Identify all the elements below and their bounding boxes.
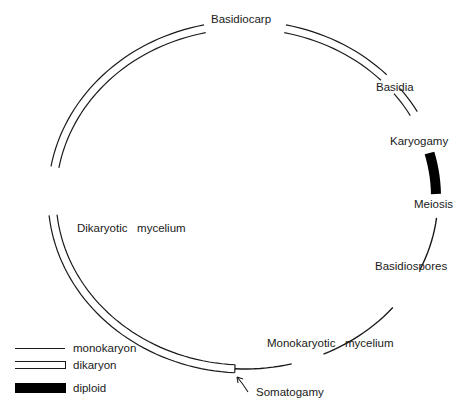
life-cycle-diagram	[0, 0, 463, 415]
legend-dikaryon-label: dikaryon	[73, 359, 116, 372]
monokaryon-line	[235, 364, 292, 369]
label-basidia: Basidia	[376, 81, 414, 94]
label-dikaryotic-mycelium: Dikaryotic mycelium	[77, 222, 186, 235]
legend-diploid-swatch	[15, 383, 66, 393]
dikaryon-arcs	[49, 25, 417, 373]
legend-monokaryon-swatch	[15, 348, 65, 349]
label-meiosis: Meiosis	[414, 198, 453, 211]
label-basidiocarp: Basidiocarp	[211, 13, 271, 26]
legend-monokaryon-label: monokaryon	[73, 342, 136, 355]
somatogamy-arrow-icon	[237, 377, 248, 392]
dikaryon-outer-line	[51, 25, 204, 167]
label-somatogamy: Somatogamy	[256, 386, 324, 399]
legend-dikaryon-swatch	[15, 361, 66, 369]
label-karyogamy: Karyogamy	[390, 135, 448, 148]
label-basidiospores: Basidiospores	[375, 260, 447, 273]
label-monokaryotic-mycelium: Monokaryotic mycelium	[267, 337, 394, 350]
diploid-arc	[429, 153, 435, 194]
diploid-bar	[429, 153, 435, 194]
dikaryon-inner-line	[394, 94, 410, 116]
legend-diploid-label: diploid	[73, 382, 106, 395]
